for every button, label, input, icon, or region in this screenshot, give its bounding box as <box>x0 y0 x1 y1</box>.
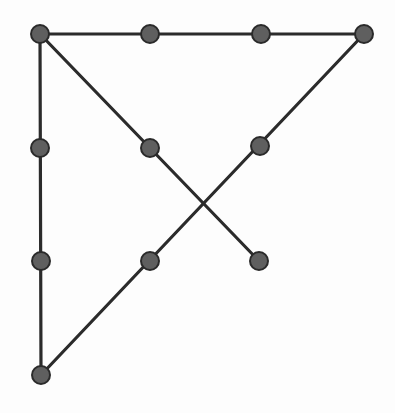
dot-d2 <box>141 25 159 43</box>
lines-layer <box>40 34 364 375</box>
dot-puzzle-diagram <box>0 0 395 413</box>
diagram-svg <box>0 0 395 413</box>
dot-d4 <box>355 25 373 43</box>
dot-d3 <box>252 25 270 43</box>
dot-d8 <box>32 252 50 270</box>
dot-d1 <box>31 25 49 43</box>
dot-d9 <box>141 252 159 270</box>
dot-d10 <box>250 252 268 270</box>
dot-d6 <box>141 139 159 157</box>
dot-d7 <box>251 137 269 155</box>
dot-d5 <box>31 139 49 157</box>
dot-d11 <box>32 366 50 384</box>
connector-line-left-edge <box>40 34 41 375</box>
